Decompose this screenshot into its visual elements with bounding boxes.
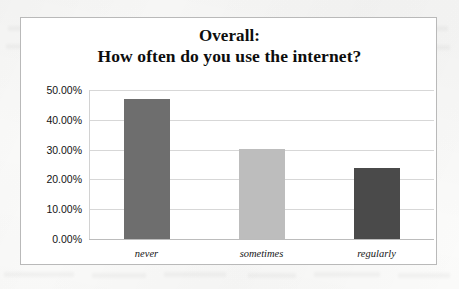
x-axis-tick-label-regularly: regularly [357,248,396,259]
chart-title-line-2: How often do you use the internet? [21,46,438,67]
chart-title: Overall: How often do you use the intern… [21,25,438,67]
page-bleedthrough-artifact [92,273,146,278]
page-bleedthrough-artifact [4,272,74,277]
x-axis-line [89,239,434,240]
plot-area: 0.00%10.00%20.00%30.00%40.00%50.00% neve… [89,90,434,239]
y-axis-tick-label: 0.00% [52,233,82,245]
bar-regularly[interactable] [354,168,400,239]
scanned-page-background: Overall: How often do you use the intern… [0,0,459,289]
chart-container: Overall: How often do you use the intern… [20,17,437,265]
y-axis-tick-label: 50.00% [46,84,82,96]
bar-never[interactable] [124,99,170,239]
bar-sometimes[interactable] [239,149,285,239]
x-axis-tick-label-never: never [135,248,158,259]
x-axis-tick-label-sometimes: sometimes [240,248,284,259]
y-axis-tick-label: 10.00% [46,203,82,215]
page-bleedthrough-artifact [164,272,226,277]
y-axis-tick-label: 40.00% [46,114,82,126]
y-axis-line [89,90,90,239]
y-axis-tick-label: 20.00% [46,173,82,185]
page-bleedthrough-artifact [398,273,450,278]
gridline [89,90,434,91]
y-axis-tick-label: 30.00% [46,144,82,156]
page-bleedthrough-artifact [314,272,380,277]
page-bleedthrough-artifact [248,273,296,278]
chart-title-line-1: Overall: [21,25,438,46]
